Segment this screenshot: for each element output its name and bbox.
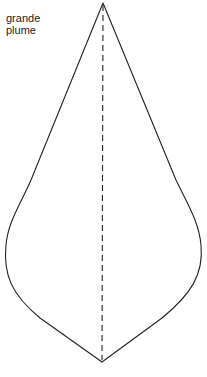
feather-outline <box>5 3 201 362</box>
fold-line <box>102 5 103 360</box>
feather-diagram <box>0 0 207 377</box>
